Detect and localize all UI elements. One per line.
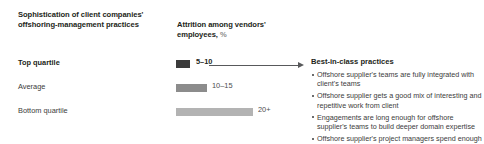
list-item: Offshore supplier's project managers spe… [311, 134, 484, 143]
bar-average [176, 84, 207, 92]
row-label-average: Average [18, 82, 45, 92]
percent-unit-label: % [220, 30, 227, 39]
right-column-header-line2: employees, [177, 30, 218, 39]
list-item: Offshore supplier gets a good mix of int… [311, 91, 484, 110]
connector-arrow-icon [209, 62, 305, 68]
row-label-top-quartile: Top quartile [18, 58, 60, 68]
callout-bullet-list: Offshore supplier's teams are fully inte… [311, 70, 484, 143]
row-label-bottom-quartile: Bottom quartile [18, 106, 68, 116]
left-column-header: Sophistication of client companies' offs… [18, 10, 168, 31]
callout-title: Best-in-class practices [311, 57, 484, 67]
right-column-header-line1: Attrition among vendors' [177, 20, 266, 29]
arrow-head-icon [298, 62, 304, 68]
connector-line [209, 65, 299, 66]
best-in-class-callout: Best-in-class practices Offshore supplie… [311, 57, 484, 144]
right-column-header: Attrition among vendors'employees, % [177, 20, 297, 41]
list-item: Offshore supplier's teams are fully inte… [311, 70, 484, 89]
list-item: Engagements are long enough for offshore… [311, 113, 484, 132]
bar-value-average: 10–15 [212, 81, 233, 91]
bar-bottom-quartile [176, 108, 253, 116]
bar-top-quartile [176, 60, 190, 68]
exhibit-chart: Sophistication of client companies' offs… [0, 0, 484, 144]
bar-value-bottom-quartile: 20+ [258, 105, 271, 115]
